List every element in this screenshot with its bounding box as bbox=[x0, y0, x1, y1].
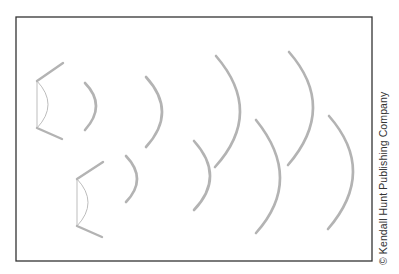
wavefront-arc bbox=[126, 156, 137, 202]
wavefront-arc bbox=[85, 83, 96, 130]
wavefront-arc bbox=[215, 56, 240, 167]
source-upper bbox=[37, 52, 313, 167]
source-lower bbox=[77, 116, 353, 237]
emitter-icon bbox=[37, 63, 63, 139]
copyright-credit: © Kendall Hunt Publishing Company bbox=[377, 92, 389, 265]
wavefront-arc bbox=[256, 120, 280, 233]
wavefront-arc bbox=[328, 116, 353, 229]
wavefront-arc bbox=[194, 141, 210, 210]
wavefront-arc bbox=[288, 52, 313, 165]
diagram-frame bbox=[16, 17, 372, 261]
wave-diagram bbox=[0, 0, 399, 274]
emitter-icon bbox=[77, 162, 103, 237]
wavefront-arc bbox=[146, 77, 162, 147]
